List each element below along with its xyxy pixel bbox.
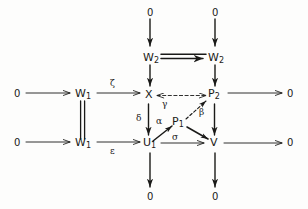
- node-zero-top-left-text: 0: [147, 7, 153, 18]
- node-zero-mid-right: 0: [287, 88, 293, 99]
- node-p1: P1: [172, 116, 184, 130]
- node-zero-bottom-v-text: 0: [212, 191, 218, 202]
- node-zero-mid-right-text: 0: [287, 88, 293, 99]
- node-w1-upper-subscript: 1: [86, 92, 91, 101]
- node-v-text: V: [210, 136, 218, 149]
- node-w2-right-subscript: 2: [219, 56, 224, 65]
- node-zero-top-left: 0: [147, 7, 153, 18]
- node-w2-right: W2: [208, 52, 224, 66]
- diagram-canvas: P2 dashed bidirectional (gamma) ===== --…: [0, 0, 308, 209]
- node-p2-text: P: [208, 87, 215, 100]
- node-w2-left-subscript: 2: [154, 56, 159, 65]
- node-zero-low-left-text: 0: [14, 137, 20, 148]
- node-w1-lower: W1: [75, 137, 91, 151]
- node-w1-upper-text: W: [75, 87, 86, 100]
- node-zero-bot-right: 0: [287, 137, 293, 148]
- edge-label-zeta: ζ: [110, 79, 115, 88]
- edge-label-gamma-text: γ: [162, 99, 167, 109]
- node-zero-bottom-v: 0: [212, 191, 218, 202]
- node-p2-subscript: 2: [215, 92, 220, 101]
- node-w2-right-text: W: [208, 51, 219, 64]
- edge-label-alpha-text: α: [156, 116, 162, 126]
- node-w2-left: W2: [143, 52, 159, 66]
- node-v: V: [210, 137, 218, 148]
- edge-label-epsilon-text: ε: [110, 146, 115, 156]
- edge-label-zeta-text: ζ: [110, 78, 115, 88]
- node-zero-low-left: 0: [14, 137, 20, 148]
- commutative-diagram-graphics: P2 dashed bidirectional (gamma) ===== --…: [0, 0, 308, 209]
- edge-label-sigma-text: σ: [172, 132, 178, 142]
- node-x-text: X: [145, 88, 153, 101]
- edge-label-sigma: σ: [172, 133, 178, 142]
- edge-label-gamma: γ: [162, 100, 167, 109]
- node-zero-bot-right-text: 0: [287, 137, 293, 148]
- edge-p1-to-v: [187, 127, 208, 139]
- edge-label-delta-text: δ: [136, 113, 141, 123]
- edge-label-epsilon: ε: [110, 147, 115, 156]
- node-zero-top-right: 0: [212, 7, 218, 18]
- node-x: X: [145, 89, 153, 100]
- node-w1-lower-subscript: 1: [86, 141, 91, 150]
- node-zero-mid-left: 0: [14, 88, 20, 99]
- node-p1-subscript: 1: [179, 120, 184, 129]
- node-w2-left-text: W: [143, 51, 154, 64]
- node-zero-bottom-u1-text: 0: [147, 191, 153, 202]
- edge-w2-to-w2: [161, 54, 206, 58]
- node-p2: P2: [208, 88, 220, 102]
- edge-label-delta: δ: [136, 114, 141, 123]
- node-w1-lower-text: W: [75, 136, 86, 149]
- node-p1-text: P: [172, 115, 179, 128]
- node-u1: U1: [143, 137, 156, 151]
- edge-label-beta-text: β: [199, 107, 204, 117]
- edge-label-beta: β: [199, 108, 204, 117]
- edge-w1-to-w1: [81, 101, 85, 139]
- node-u1-text: U: [143, 136, 151, 149]
- edge-label-alpha: α: [156, 117, 162, 126]
- node-u1-subscript: 1: [151, 141, 156, 150]
- node-zero-bottom-u1: 0: [147, 191, 153, 202]
- node-w1-upper: W1: [75, 88, 91, 102]
- node-zero-mid-left-text: 0: [14, 88, 20, 99]
- node-zero-top-right-text: 0: [212, 7, 218, 18]
